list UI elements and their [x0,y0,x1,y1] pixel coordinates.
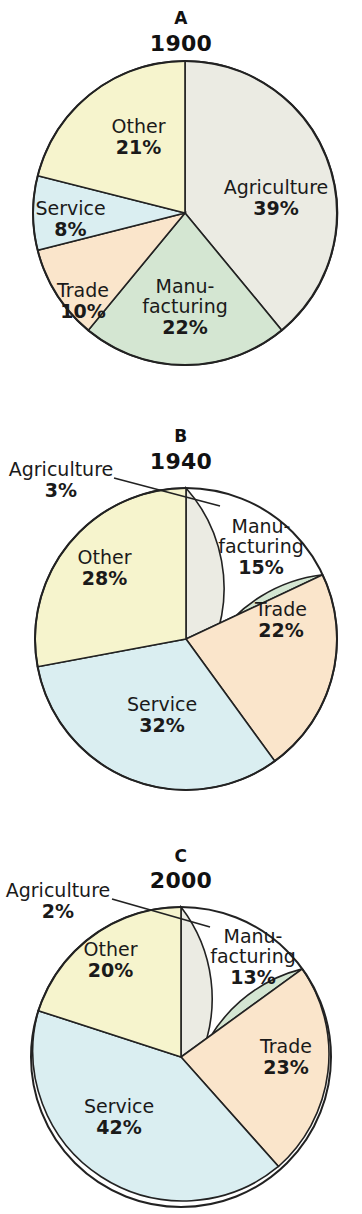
label-manufacturing-percent: 15% [205,558,317,578]
label-service-percent: 8% [23,220,118,240]
label-agriculture-category: Agriculture [0,881,116,901]
label-agriculture-callout: Agriculture 3% [2,460,120,501]
pie-chart-b-1940: B 1940 Agriculture 3% Manu- facturing 15… [0,400,362,805]
label-service-category: Service [70,1097,168,1117]
label-trade-category: Trade [240,1037,332,1057]
label-manufacturing: Manu- facturing 15% [205,517,317,578]
label-other-percent: 21% [91,138,186,158]
label-other: Other 20% [63,940,158,981]
label-other-category: Other [57,548,152,568]
label-trade-category: Trade [235,600,327,620]
chart-a-panel-letter: A [0,10,362,27]
label-agriculture-callout: Agriculture 2% [0,881,116,922]
label-agriculture-category: Agriculture [206,178,346,198]
label-manufacturing-category: Manu- facturing [130,277,240,317]
label-trade: Trade 22% [235,600,327,641]
label-other-percent: 20% [63,961,158,981]
chart-b-panel-letter: B [0,428,362,445]
label-service: Service 8% [23,199,118,240]
label-trade-category: Trade [38,281,128,301]
label-other-category: Other [63,940,158,960]
label-service-percent: 32% [113,716,211,736]
label-agriculture-category: Agriculture [2,460,120,480]
label-manufacturing-percent: 22% [130,318,240,338]
chart-a-year-title: 1900 [0,33,362,55]
leader-line-segment [112,899,210,927]
pie-chart-c-2000: C 2000 Agriculture 2% Manu- facturing 13… [0,805,362,1214]
label-agriculture-percent: 3% [2,481,120,501]
label-agriculture-percent: 39% [206,199,346,219]
label-other: Other 21% [91,117,186,158]
agriculture-leader-line [112,474,272,514]
label-manufacturing: Manu- facturing 13% [194,927,312,988]
label-service: Service 32% [113,695,211,736]
label-service-category: Service [113,695,211,715]
chart-c-panel-letter: C [0,848,362,865]
label-service: Service 42% [70,1097,168,1138]
label-trade-percent: 23% [240,1058,332,1078]
label-manufacturing-category: Manu- facturing [205,517,317,557]
leader-line-segment [114,478,220,506]
label-trade-percent: 22% [235,621,327,641]
label-trade-percent: 10% [38,302,128,322]
label-trade: Trade 10% [38,281,128,322]
label-agriculture: Agriculture 39% [206,178,346,219]
label-other: Other 28% [57,548,152,589]
label-manufacturing-category: Manu- facturing [194,927,312,967]
label-agriculture-percent: 2% [0,902,116,922]
label-trade: Trade 23% [240,1037,332,1078]
label-service-percent: 42% [70,1118,168,1138]
label-manufacturing: Manu- facturing 22% [130,277,240,338]
label-manufacturing-percent: 13% [194,968,312,988]
label-service-category: Service [23,199,118,219]
label-other-percent: 28% [57,569,152,589]
label-other-category: Other [91,117,186,137]
pie-chart-a-1900: A 1900 Agriculture 39% Manu- facturing 2… [0,0,362,400]
